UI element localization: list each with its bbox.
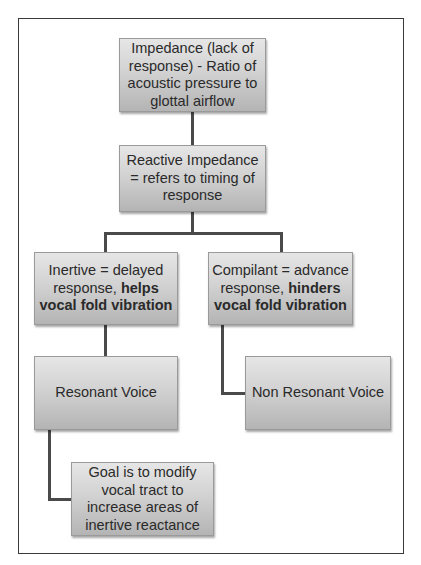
connector-reactive-down — [191, 212, 194, 233]
connector-to-inertive — [104, 232, 107, 252]
node-non-resonant-voice-text: Non Resonant Voice — [252, 384, 384, 402]
connector-impedance-reactive — [191, 112, 194, 145]
connector-inertive-resonant — [104, 325, 107, 356]
node-impedance-text: Impedance (lack of response) - Ratio of … — [123, 40, 262, 110]
connector-to-goal — [48, 498, 72, 501]
node-resonant-voice-text: Resonant Voice — [55, 384, 157, 402]
node-inertive: Inertive = delayed response, helps vocal… — [34, 252, 178, 325]
node-goal: Goal is to modify vocal tract to increas… — [71, 462, 214, 536]
node-compliant-text: Compilant = advance response, hinders vo… — [212, 262, 349, 315]
connector-horizontal-branch — [104, 232, 283, 235]
node-reactive-impedance: Reactive Impedance = refers to timing of… — [119, 145, 266, 212]
connector-to-compliant — [280, 232, 283, 252]
node-reactive-impedance-text: Reactive Impedance = refers to timing of… — [123, 152, 262, 205]
node-compliant: Compilant = advance response, hinders vo… — [208, 252, 353, 325]
node-resonant-voice: Resonant Voice — [34, 356, 178, 430]
node-impedance: Impedance (lack of response) - Ratio of … — [119, 38, 266, 112]
connector-compliant-down — [221, 325, 224, 395]
connector-to-non-resonant — [221, 392, 246, 395]
connector-resonant-down — [48, 430, 51, 501]
node-non-resonant-voice: Non Resonant Voice — [245, 356, 391, 430]
node-goal-text: Goal is to modify vocal tract to increas… — [75, 464, 210, 534]
node-inertive-text: Inertive = delayed response, helps vocal… — [38, 262, 174, 315]
